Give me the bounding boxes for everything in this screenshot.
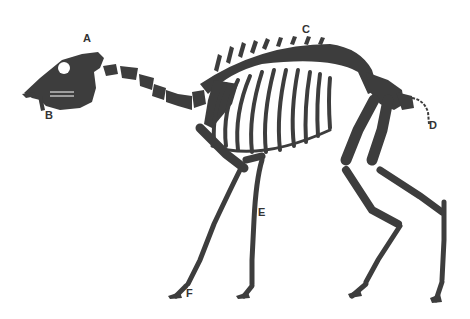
skull: [22, 52, 104, 111]
neck-vertebrae: [103, 64, 206, 110]
ribcage: [212, 70, 330, 152]
label-f: F: [186, 288, 193, 299]
label-a: A: [83, 33, 91, 44]
hooves: [168, 290, 442, 303]
label-d: D: [429, 120, 437, 131]
skeleton-diagram: A B C D E F: [0, 0, 470, 319]
label-e: E: [258, 207, 265, 218]
skeleton-illustration: [0, 0, 470, 319]
front-legs: [176, 128, 262, 296]
label-c: C: [302, 24, 310, 35]
label-b: B: [45, 110, 53, 121]
tail: [412, 98, 429, 124]
